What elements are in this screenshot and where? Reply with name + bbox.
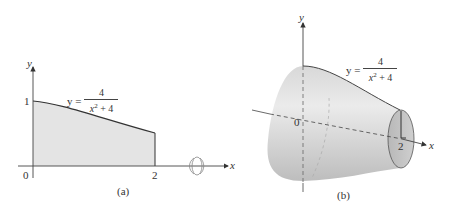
origin-label-b: 0 bbox=[294, 117, 300, 128]
origin-label-a: 0 bbox=[23, 170, 29, 181]
x-axis-label-b: x bbox=[429, 140, 434, 151]
x-axis-outside-left bbox=[252, 110, 270, 114]
fraction-bar bbox=[84, 99, 118, 100]
fraction-bar bbox=[363, 68, 397, 69]
x-tick-2-label-a: 2 bbox=[152, 170, 158, 181]
equation-lhs: y = bbox=[67, 95, 81, 107]
equation-lhs: y = bbox=[346, 64, 360, 76]
y-tick-1-label: 1 bbox=[24, 96, 30, 107]
equation-a: y = 4 x2 + 4 bbox=[67, 88, 118, 114]
x-axis-label-a: x bbox=[230, 160, 235, 171]
caption-b: (b) bbox=[337, 190, 350, 201]
panel-a bbox=[18, 67, 228, 178]
caption-a: (a) bbox=[117, 186, 129, 197]
y-axis-label-a: y bbox=[27, 58, 32, 69]
solid-of-revolution bbox=[267, 66, 400, 181]
equation-denominator: x2 + 4 bbox=[90, 101, 114, 114]
panel-b bbox=[252, 23, 426, 192]
y-axis-label-b: y bbox=[299, 12, 304, 23]
x-tick-2-label-b: 2 bbox=[398, 141, 404, 152]
equation-denominator: x2 + 4 bbox=[369, 70, 393, 83]
equation-numerator: 4 bbox=[378, 57, 383, 67]
equation-numerator: 4 bbox=[99, 88, 104, 98]
equation-b: y = 4 x2 + 4 bbox=[346, 57, 397, 83]
